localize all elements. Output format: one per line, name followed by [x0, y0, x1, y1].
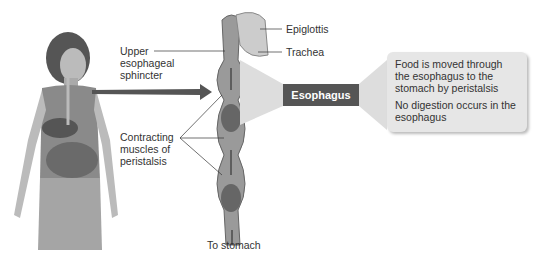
label-epiglottis: Epiglottis [286, 23, 329, 35]
label-trachea: Trachea [286, 46, 324, 58]
label-line: Contracting [120, 131, 174, 143]
info-callout: Food is moved through the esophagus to t… [387, 52, 527, 132]
label-to-stomach: To stomach [207, 239, 261, 251]
label-upper-esophageal-sphincter: Upper esophageal sphincter [120, 45, 174, 81]
esophagus-label-box: Esophagus [283, 84, 359, 106]
label-line: Upper [120, 45, 174, 57]
label-contracting-muscles: Contracting muscles of peristalsis [120, 131, 174, 167]
label-line: sphincter [120, 69, 174, 81]
callout-point: No digestion occurs in the esophagus [395, 99, 519, 123]
label-line: muscles of [120, 143, 174, 155]
label-line: esophageal [120, 57, 174, 69]
esophagus-illustration [217, 12, 268, 245]
human-figure-illustration [14, 32, 118, 250]
label-line: peristalsis [120, 155, 174, 167]
callout-point: Food is moved through the esophagus to t… [395, 58, 519, 94]
